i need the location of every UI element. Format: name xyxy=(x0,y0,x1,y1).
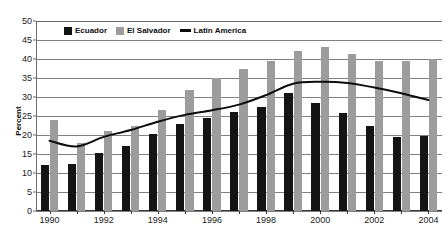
bar-el-salvador xyxy=(348,54,356,211)
bar-ecuador xyxy=(68,164,76,212)
bar-ecuador xyxy=(149,134,157,211)
x-axis-tick-mark xyxy=(185,211,186,214)
bar-group xyxy=(361,21,388,211)
bar-group xyxy=(334,21,361,211)
bar-el-salvador xyxy=(429,59,437,211)
bar-ecuador xyxy=(122,146,130,211)
bar-el-salvador xyxy=(185,90,193,211)
bar-ecuador xyxy=(420,136,428,211)
x-axis-tick-label: 2000 xyxy=(310,216,330,225)
y-axis-tick-label: 35 xyxy=(22,74,32,83)
bar-el-salvador xyxy=(212,78,220,211)
x-axis-tick-mark xyxy=(239,211,240,214)
chart-container: Percent 05101520253035404550199019921994… xyxy=(0,0,448,241)
bar-group xyxy=(225,21,252,211)
legend-swatch-el-salvador-icon xyxy=(116,27,124,35)
x-axis-tick-label: 1990 xyxy=(40,216,60,225)
legend-item-latin-america: Latin America xyxy=(180,26,247,35)
bar-group xyxy=(415,21,442,211)
bar-el-salvador xyxy=(239,69,247,212)
x-axis-tick-mark xyxy=(212,211,213,214)
legend-swatch-ecuador-icon xyxy=(64,27,72,35)
x-axis-tick-label: 2002 xyxy=(364,216,384,225)
y-axis-tick-label: 20 xyxy=(22,131,32,140)
x-axis-tick-mark xyxy=(293,211,294,214)
bar-el-salvador xyxy=(267,61,275,211)
bar-el-salvador xyxy=(294,51,302,211)
bar-ecuador xyxy=(339,113,347,211)
y-axis-tick-label: 5 xyxy=(27,188,32,197)
bar-el-salvador xyxy=(104,131,112,211)
x-axis-tick-mark xyxy=(131,211,132,214)
x-axis-tick-mark xyxy=(320,211,321,214)
bar-group xyxy=(144,21,171,211)
legend-label-ecuador: Ecuador xyxy=(75,26,107,35)
bar-group xyxy=(280,21,307,211)
bar-ecuador xyxy=(95,153,103,211)
y-axis-tick-label: 40 xyxy=(22,55,32,64)
legend-item-el-salvador: El Salvador xyxy=(116,26,171,35)
bar-el-salvador xyxy=(321,47,329,211)
bar-group xyxy=(171,21,198,211)
bar-el-salvador xyxy=(50,120,58,211)
bar-ecuador xyxy=(393,137,401,211)
y-axis-tick-label: 45 xyxy=(22,36,32,45)
y-axis-tick-label: 50 xyxy=(22,17,32,26)
x-axis-tick-mark xyxy=(401,211,402,214)
x-axis-tick-mark xyxy=(374,211,375,214)
y-axis-tick-label: 25 xyxy=(22,112,32,121)
y-axis-tick-label: 15 xyxy=(22,150,32,159)
bar-group xyxy=(117,21,144,211)
x-axis-tick-mark xyxy=(158,211,159,214)
bar-group xyxy=(253,21,280,211)
x-axis-tick-mark xyxy=(428,211,429,214)
bar-group xyxy=(90,21,117,211)
x-axis-tick-mark xyxy=(50,211,51,214)
x-axis-tick-mark xyxy=(77,211,78,214)
x-axis-tick-label: 1994 xyxy=(148,216,168,225)
bar-el-salvador xyxy=(158,110,166,211)
x-axis-tick-label: 2004 xyxy=(418,216,438,225)
bar-el-salvador xyxy=(77,143,85,211)
bar-group xyxy=(36,21,63,211)
x-axis-tick-label: 1992 xyxy=(94,216,114,225)
bar-ecuador xyxy=(230,112,238,211)
bar-el-salvador xyxy=(375,61,383,211)
bar-group xyxy=(63,21,90,211)
x-axis-tick-mark xyxy=(104,211,105,214)
bar-el-salvador xyxy=(131,126,139,212)
bar-el-salvador xyxy=(402,61,410,211)
y-axis-tick-label: 0 xyxy=(27,207,32,216)
legend-label-latin-america: Latin America xyxy=(194,26,247,35)
legend-label-el-salvador: El Salvador xyxy=(127,26,171,35)
y-axis-tick-label: 30 xyxy=(22,93,32,102)
bar-ecuador xyxy=(366,126,374,211)
bar-ecuador xyxy=(257,107,265,212)
legend-swatch-latin-america-icon xyxy=(180,29,191,32)
bar-ecuador xyxy=(41,165,49,211)
plot-area: 0510152025303540455019901992199419961998… xyxy=(36,21,442,211)
bar-group xyxy=(198,21,225,211)
x-axis-tick-label: 1998 xyxy=(256,216,276,225)
x-axis-tick-mark xyxy=(347,211,348,214)
bar-ecuador xyxy=(284,93,292,211)
y-axis-tick-label: 10 xyxy=(22,169,32,178)
x-axis-tick-label: 1996 xyxy=(202,216,222,225)
bar-ecuador xyxy=(311,103,319,211)
bar-ecuador xyxy=(176,124,184,211)
chart-legend: Ecuador El Salvador Latin America xyxy=(64,26,246,35)
legend-item-ecuador: Ecuador xyxy=(64,26,107,35)
bar-ecuador xyxy=(203,118,211,211)
bar-group xyxy=(307,21,334,211)
x-axis-tick-mark xyxy=(266,211,267,214)
bar-group xyxy=(388,21,415,211)
